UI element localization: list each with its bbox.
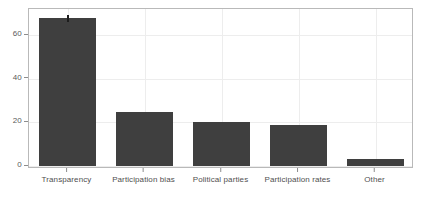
y-axis-tick: 20 [13,115,28,127]
plot-area [28,8,413,168]
bar-participation-rates [270,125,328,166]
x-axis-tick: Participation bias [112,168,175,184]
y-axis-tick-mark [24,77,28,78]
y-axis-tick-label: 60 [13,28,24,40]
y-axis-tick-label: 40 [13,72,24,84]
x-axis-tick-mark [66,168,67,172]
y-axis-tick-label: 0 [17,159,24,171]
y-axis: 0204060 [0,0,28,198]
x-axis-tick-mark [297,168,298,172]
x-axis-tick-mark [220,168,221,172]
bar-top-marker [67,15,69,22]
x-axis-tick-mark [374,168,375,172]
x-axis: TransparencyParticipation biasPolitical … [28,168,413,198]
x-axis-tick-mark [143,168,144,172]
x-axis-tick-label: Political parties [193,175,249,184]
x-axis-tick: Political parties [193,168,249,184]
bar-other [347,159,405,166]
x-axis-tick-label: Participation rates [265,175,331,184]
y-axis-tick-mark [24,121,28,122]
bar-chart: 0204060 TransparencyParticipation biasPo… [0,0,427,198]
x-axis-tick: Participation rates [265,168,331,184]
x-axis-tick-label: Participation bias [112,175,175,184]
y-axis-tick: 40 [13,72,28,84]
x-axis-tick: Other [364,168,385,184]
bars-layer [29,9,412,167]
bar-transparency [39,18,97,166]
x-axis-tick-label: Other [364,175,385,184]
x-axis-tick: Transparency [42,168,92,184]
y-axis-tick-label: 20 [13,115,24,127]
bar-participation-bias [116,112,174,167]
y-axis-tick: 60 [13,28,28,40]
y-axis-tick-mark [24,165,28,166]
y-axis-tick: 0 [17,159,28,171]
y-axis-tick-mark [24,34,28,35]
bar-political-parties [193,122,251,166]
x-axis-tick-label: Transparency [42,175,92,184]
